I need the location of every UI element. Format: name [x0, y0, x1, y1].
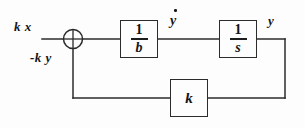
fraction-numerator: 1 [232, 23, 245, 38]
block-1-over-s[interactable]: 1 s [219, 20, 257, 58]
fraction-numerator: 1 [133, 23, 146, 38]
output-label: y [268, 13, 274, 29]
block-diagram: 1 b 1 s k k x -k y y y [0, 0, 305, 128]
summing-junction [64, 30, 83, 49]
feedback-signal-label: -k y [30, 50, 52, 66]
fraction-denominator: b [133, 40, 146, 55]
fraction-denominator: s [232, 40, 243, 55]
overdot-accent [174, 9, 177, 12]
input-label: k x [14, 19, 32, 35]
intermediate-label-base: y [170, 13, 176, 29]
fraction-1-over-b: 1 b [131, 23, 148, 54]
block-1-over-b[interactable]: 1 b [120, 20, 158, 58]
gain-symbol: k [185, 90, 193, 107]
intermediate-label: y [168, 9, 184, 35]
fraction-1-over-s: 1 s [230, 23, 247, 54]
block-gain-k[interactable]: k [170, 79, 208, 117]
